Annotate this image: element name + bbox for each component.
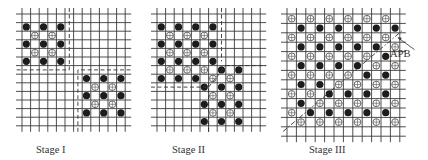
antiphase-domain-diagram: Stage I Stage II Stage III APB: [0, 0, 428, 160]
open-atom: [201, 32, 208, 39]
filled-atom: [218, 84, 225, 91]
filled-atom: [298, 43, 305, 50]
open-atom: [288, 15, 295, 22]
stage-2-caption: Stage II: [172, 144, 205, 155]
filled-atom: [316, 43, 323, 50]
open-atom: [307, 15, 314, 22]
open-atom: [326, 53, 333, 60]
open-atom: [210, 92, 217, 99]
filled-atom: [354, 43, 361, 50]
stage-3-caption: Stage III: [309, 144, 346, 155]
open-atom: [382, 34, 389, 41]
open-atom: [373, 62, 380, 69]
filled-atom: [175, 75, 182, 82]
filled-atom: [192, 41, 199, 48]
filled-atom: [316, 81, 323, 88]
filled-atom: [382, 72, 389, 79]
open-atom: [345, 53, 352, 60]
filled-atom: [363, 72, 370, 79]
filled-atom: [23, 41, 30, 48]
open-atom: [307, 53, 314, 60]
open-atom: [364, 53, 371, 60]
open-atom: [49, 49, 56, 56]
filled-atom: [209, 41, 216, 48]
filled-atom: [382, 109, 389, 116]
open-atom: [109, 101, 116, 108]
filled-atom: [57, 23, 64, 30]
open-atom: [184, 49, 191, 56]
filled-atom: [117, 92, 124, 99]
filled-atom: [117, 75, 124, 82]
filled-atom: [218, 101, 225, 108]
filled-atom: [83, 75, 90, 82]
open-atom: [392, 81, 399, 88]
filled-atom: [192, 23, 199, 30]
filled-atom: [382, 53, 389, 60]
filled-atom: [326, 109, 333, 116]
open-atom: [345, 34, 352, 41]
open-atom: [326, 15, 333, 22]
filled-atom: [23, 58, 30, 65]
open-atom: [227, 110, 234, 117]
filled-atom: [209, 23, 216, 30]
filled-atom: [57, 58, 64, 65]
open-atom: [345, 15, 352, 22]
filled-atom: [307, 109, 314, 116]
stage-3-panel: [281, 8, 415, 142]
stage-2-panel: [151, 8, 266, 132]
filled-atom: [175, 58, 182, 65]
open-atom: [184, 32, 191, 39]
open-atom: [49, 32, 56, 39]
filled-atom: [158, 23, 165, 30]
filled-atom: [201, 101, 208, 108]
filled-atom: [354, 25, 361, 32]
open-atom: [354, 100, 361, 107]
open-atom: [288, 91, 295, 98]
filled-atom: [235, 101, 242, 108]
open-atom: [227, 75, 234, 82]
filled-atom: [158, 58, 165, 65]
open-atom: [167, 49, 174, 56]
open-atom: [307, 34, 314, 41]
filled-atom: [175, 41, 182, 48]
filled-atom: [57, 41, 64, 48]
stage-1-caption: Stage I: [36, 144, 66, 155]
open-atom: [227, 92, 234, 99]
filled-atom: [83, 109, 90, 116]
filled-atom: [192, 75, 199, 82]
filled-atom: [298, 25, 305, 32]
filled-atom: [235, 118, 242, 125]
filled-atom: [192, 58, 199, 65]
open-atom: [326, 72, 333, 79]
open-atom: [364, 34, 371, 41]
open-atom: [92, 101, 99, 108]
filled-atom: [298, 81, 305, 88]
stage-1-panel: [16, 8, 131, 132]
open-atom: [373, 119, 380, 126]
filled-atom: [218, 118, 225, 125]
open-atom: [167, 67, 174, 74]
filled-atom: [40, 41, 47, 48]
open-atom: [317, 119, 324, 126]
filled-atom: [218, 66, 225, 73]
open-atom: [392, 119, 399, 126]
filled-atom: [373, 43, 380, 50]
open-atom: [335, 100, 342, 107]
open-atom: [210, 110, 217, 117]
open-atom: [373, 81, 380, 88]
open-atom: [317, 100, 324, 107]
filled-atom: [345, 90, 352, 97]
filled-atom: [100, 75, 107, 82]
filled-atom: [23, 23, 30, 30]
open-atom: [354, 119, 361, 126]
filled-atom: [298, 100, 305, 107]
filled-atom: [326, 90, 333, 97]
open-atom: [184, 67, 191, 74]
open-atom: [307, 72, 314, 79]
open-atom: [392, 100, 399, 107]
open-atom: [382, 15, 389, 22]
filled-atom: [373, 25, 380, 32]
filled-atom: [354, 62, 361, 69]
open-atom: [288, 109, 295, 116]
open-atom: [307, 91, 314, 98]
